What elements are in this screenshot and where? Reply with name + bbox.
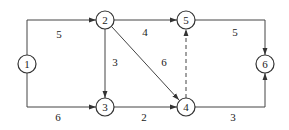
node-label-3: 3 [102, 101, 108, 113]
weight-1-3: 6 [55, 111, 61, 123]
node-label-4: 4 [183, 101, 189, 113]
diagram-canvas: 1 2 3 4 5 6 5 6 3 4 6 2 5 3 [0, 0, 289, 130]
weight-4-6: 3 [230, 111, 236, 123]
weight-2-4: 6 [161, 56, 167, 68]
edge-5-6 [195, 20, 265, 55]
node-label-1: 1 [24, 58, 30, 70]
node-label-2: 2 [102, 14, 108, 26]
edge-1-3 [27, 73, 96, 107]
weight-5-6: 5 [232, 26, 238, 38]
weight-2-3: 3 [112, 56, 118, 68]
network-diagram: 1 2 3 4 5 6 5 6 3 4 6 2 5 3 [0, 0, 289, 130]
edge-4-6 [195, 73, 265, 107]
weight-1-2: 5 [56, 28, 62, 40]
node-label-6: 6 [262, 58, 268, 70]
weight-3-4: 2 [141, 111, 147, 123]
node-label-5: 5 [183, 14, 189, 26]
weight-2-5: 4 [142, 26, 148, 38]
